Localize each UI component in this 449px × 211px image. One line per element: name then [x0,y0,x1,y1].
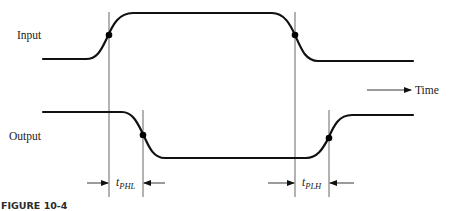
t-plh-subscript: PLH [304,181,322,191]
input-fall-midpoint-dot [292,32,299,39]
output-waveform [43,112,413,158]
output-rise-midpoint-dot [326,135,333,142]
input-rise-midpoint-dot [106,32,113,39]
input-label: Input [17,29,42,42]
t-plh-label: tPLH [302,176,322,191]
output-label: Output [9,130,42,143]
t-phl-subscript: PHL [118,181,135,191]
figure-caption: FIGURE 10-4 [1,200,68,211]
output-fall-midpoint-dot [140,132,147,139]
propagation-delay-diagram: Input Output Time tPHL tPLH FIGURE 10-4 [0,0,449,211]
t-phl-label: tPHL [116,176,136,191]
time-label: Time [415,84,439,96]
input-waveform [43,13,413,61]
